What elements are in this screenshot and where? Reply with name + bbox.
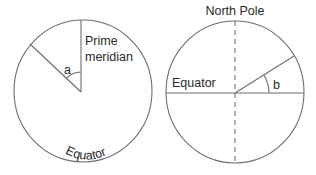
- left-equator-label: Equator: [64, 143, 108, 162]
- right-equator-label: Equator: [172, 76, 216, 90]
- right-globe: North Pole b Equator: [166, 4, 304, 163]
- prime-meridian-label-line1: Prime: [85, 34, 118, 48]
- left-globe: a Prime meridian Equator: [14, 20, 152, 163]
- angle-a-label: a: [64, 63, 71, 77]
- latitude-longitude-diagram: a Prime meridian Equator North Pole b Eq…: [0, 0, 316, 175]
- north-pole-label: North Pole: [205, 4, 264, 18]
- latitude-line: [235, 56, 294, 93]
- equator-circle: [14, 20, 152, 162]
- angle-b-arc: [264, 75, 269, 93]
- angle-b-label: b: [273, 78, 280, 92]
- longitude-line: [30, 44, 81, 92]
- prime-meridian-label-line2: meridian: [85, 50, 133, 64]
